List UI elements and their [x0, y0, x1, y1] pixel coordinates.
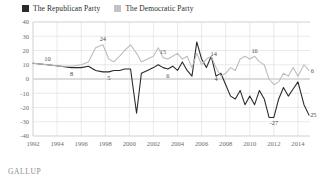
- legend-label-republican: The Republican Party: [33, 4, 100, 13]
- x-axis-tick-label: 1996: [75, 140, 89, 147]
- source-attribution: GALLUP: [8, 167, 41, 176]
- x-axis-tick-label: 2012: [267, 140, 280, 147]
- legend-swatch-republican-icon: [22, 5, 29, 12]
- series-line-republican: [33, 42, 309, 118]
- chart-legend: The Republican Party The Democratic Part…: [22, 4, 194, 13]
- y-axis-tick-label: -30: [20, 118, 29, 125]
- data-point-label-democratic: 6: [311, 67, 314, 74]
- legend-label-democratic: The Democratic Party: [125, 4, 193, 13]
- chart-plot-area: 403020100-10-20-30-401992199419961998200…: [0, 16, 327, 156]
- line-chart-svg: 403020100-10-20-30-401992199419961998200…: [0, 16, 327, 156]
- data-point-label-republican: 8: [70, 70, 73, 77]
- x-axis-tick-label: 2008: [219, 140, 233, 147]
- x-axis-tick-label: 2014: [291, 140, 305, 147]
- y-axis-tick-label: 0: [26, 75, 30, 82]
- y-axis-tick-label: 10: [22, 61, 29, 68]
- x-axis-tick-label: 2004: [171, 140, 185, 147]
- data-point-label-republican: 6: [166, 72, 169, 79]
- y-axis-tick-label: 20: [22, 47, 29, 54]
- data-point-label-republican: 10: [44, 55, 50, 62]
- x-axis-tick-label: 2000: [123, 140, 137, 147]
- x-axis-tick-label: 2002: [147, 140, 160, 147]
- data-point-label-democratic: 15: [160, 48, 166, 55]
- x-axis-tick-label: 1998: [99, 140, 113, 147]
- x-axis-tick-label: 1994: [50, 140, 64, 147]
- data-point-label-democratic: 16: [251, 47, 257, 54]
- data-point-label-democratic: 24: [100, 35, 107, 42]
- x-axis-tick-label: 2006: [195, 140, 209, 147]
- y-axis-tick-label: 30: [22, 33, 29, 40]
- data-point-label-republican: -25: [308, 111, 317, 118]
- x-axis-tick-label: 1992: [26, 140, 39, 147]
- chart-page: The Republican Party The Democratic Part…: [0, 0, 327, 182]
- data-point-label-democratic: 14: [210, 50, 217, 57]
- data-point-label-republican: -27: [270, 119, 279, 126]
- legend-swatch-democratic-icon: [114, 5, 121, 12]
- legend-item-republican[interactable]: The Republican Party: [22, 4, 100, 13]
- x-axis-tick-label: 2010: [243, 140, 257, 147]
- y-axis-tick-label: 40: [22, 18, 29, 25]
- data-point-label-republican: 5: [107, 74, 110, 81]
- y-axis-tick-label: -20: [20, 104, 29, 111]
- legend-item-democratic[interactable]: The Democratic Party: [114, 4, 193, 13]
- y-axis-tick-label: -40: [20, 132, 29, 139]
- y-axis-tick-label: -10: [20, 90, 29, 97]
